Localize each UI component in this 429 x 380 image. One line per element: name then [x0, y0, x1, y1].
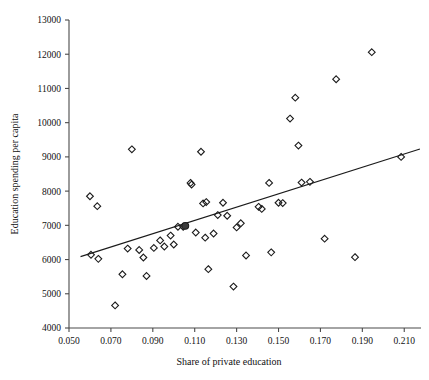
data-point — [161, 243, 168, 250]
y-tick-label: 6000 — [42, 255, 61, 265]
data-point — [140, 254, 147, 261]
regression-line — [81, 149, 420, 257]
data-point — [119, 271, 126, 278]
y-tick-label: 8000 — [42, 187, 61, 197]
regression-line-path — [81, 149, 420, 257]
data-points — [87, 49, 405, 309]
data-point — [352, 254, 359, 261]
y-tick-label: 9000 — [42, 152, 61, 162]
data-point — [202, 234, 209, 241]
y-tick-label: 12000 — [37, 50, 61, 60]
data-point — [368, 49, 375, 56]
y-tick-label: 7000 — [42, 221, 61, 231]
y-tick-label: 11000 — [38, 84, 62, 94]
data-point — [298, 179, 305, 186]
data-point — [287, 115, 294, 122]
data-point — [210, 230, 217, 237]
x-tick-label: 0.130 — [226, 336, 248, 346]
data-point — [87, 193, 94, 200]
data-point — [266, 179, 273, 186]
data-point — [94, 203, 101, 210]
data-point — [321, 235, 328, 242]
y-tick-label: 4000 — [42, 323, 61, 333]
data-point — [205, 266, 212, 273]
x-axis-title: Share of private education — [176, 356, 281, 367]
data-point — [112, 302, 119, 309]
data-point — [150, 245, 157, 252]
x-tick-label: 0.210 — [394, 336, 416, 346]
data-point — [167, 232, 174, 239]
x-tick-label: 0.110 — [184, 336, 205, 346]
x-tick-label: 0.190 — [352, 336, 374, 346]
data-point — [333, 76, 340, 83]
data-point — [230, 283, 237, 290]
x-tick-label: 0.170 — [310, 336, 332, 346]
y-axis-ticks: 4000500060007000800090001000011000120001… — [37, 15, 69, 333]
plot-canvas: 4000500060007000800090001000011000120001… — [0, 0, 429, 380]
data-point — [295, 142, 302, 149]
axis-spines — [69, 20, 421, 328]
x-tick-label: 0.070 — [100, 336, 122, 346]
data-point — [95, 255, 102, 262]
data-point — [220, 199, 227, 206]
y-tick-label: 5000 — [42, 289, 61, 299]
data-point — [157, 237, 164, 244]
data-point — [292, 94, 299, 101]
data-point — [198, 148, 205, 155]
data-point — [224, 212, 231, 219]
data-point — [124, 245, 131, 252]
data-point — [143, 273, 150, 280]
scatter-plot-figure: 4000500060007000800090001000011000120001… — [0, 0, 429, 380]
data-point — [128, 146, 135, 153]
y-tick-label: 13000 — [37, 15, 61, 25]
y-tick-label: 10000 — [37, 118, 61, 128]
data-point — [192, 229, 199, 236]
data-point — [268, 249, 275, 256]
x-tick-label: 0.050 — [58, 336, 80, 346]
x-axis-ticks: 0.0500.0700.0900.1100.1300.1500.1700.190… — [58, 328, 415, 346]
data-point-highlighted — [182, 222, 189, 229]
y-axis-title: Education spending per capita — [9, 113, 20, 234]
data-point — [170, 241, 177, 248]
data-point — [136, 247, 143, 254]
data-point — [243, 252, 250, 259]
x-tick-label: 0.150 — [268, 336, 290, 346]
x-tick-label: 0.090 — [142, 336, 164, 346]
